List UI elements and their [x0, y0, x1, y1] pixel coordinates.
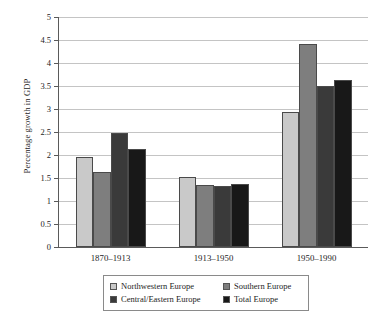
x-axis-line	[58, 247, 368, 248]
y-tick-mark	[54, 132, 58, 133]
y-tick-mark	[54, 17, 58, 18]
bar	[334, 80, 352, 247]
legend-label: Southern Europe	[234, 282, 291, 291]
y-tick-label: 3.5	[40, 82, 51, 91]
y-tick-label: 0.5	[40, 220, 51, 229]
y-tick-mark	[54, 155, 58, 156]
y-tick-mark	[54, 178, 58, 179]
bar	[93, 172, 111, 247]
bar	[128, 149, 146, 247]
bar	[179, 177, 197, 247]
y-tick-label: 1.5	[40, 174, 51, 183]
y-tick-label: 4	[47, 59, 51, 68]
y-tick-mark	[54, 201, 58, 202]
bar	[76, 157, 94, 247]
plot-area: 00.511.522.533.544.55	[58, 17, 368, 247]
bar	[214, 186, 232, 247]
bar-group	[282, 17, 352, 247]
y-tick-mark	[54, 247, 58, 248]
bars-layer	[59, 17, 368, 247]
x-axis-label: 1950–1990	[297, 253, 337, 263]
legend-item: Total Europe	[223, 295, 303, 304]
bar-group	[179, 17, 249, 247]
x-axis-label: 1913–1950	[194, 253, 234, 263]
bar	[111, 133, 129, 247]
legend-item: Northwestern Europe	[110, 282, 223, 291]
y-tick-mark	[54, 40, 58, 41]
legend-label: Northwestern Europe	[121, 282, 194, 291]
y-tick-mark	[54, 86, 58, 87]
y-tick-label: 4.5	[40, 36, 51, 45]
y-tick-label: 5	[47, 13, 51, 22]
bar-chart-figure: Percentage growth in GDP 00.511.522.533.…	[0, 0, 390, 325]
bar	[299, 44, 317, 247]
chart-legend: Northwestern EuropeSouthern EuropeCentra…	[103, 275, 309, 311]
legend-swatch	[223, 283, 230, 290]
y-tick-label: 2	[47, 151, 51, 160]
y-tick-mark	[54, 224, 58, 225]
bar	[196, 185, 214, 247]
y-tick-label: 3	[47, 105, 51, 114]
y-tick-mark	[54, 109, 58, 110]
legend-swatch	[110, 283, 117, 290]
legend-label: Central/Eastern Europe	[121, 295, 201, 304]
legend-item: Southern Europe	[223, 282, 303, 291]
x-axis-label: 1870–1913	[91, 253, 131, 263]
legend-label: Total Europe	[234, 295, 278, 304]
y-tick-label: 2.5	[40, 128, 51, 137]
y-axis-title: Percentage growth in GDP	[22, 36, 36, 216]
bar	[282, 112, 300, 247]
legend-swatch	[223, 296, 230, 303]
legend-item: Central/Eastern Europe	[110, 295, 223, 304]
bar	[317, 86, 335, 247]
y-tick-label: 0	[47, 243, 51, 252]
bar-group	[76, 17, 146, 247]
bar	[231, 184, 249, 247]
y-tick-label: 1	[47, 197, 51, 206]
y-tick-mark	[54, 63, 58, 64]
legend-swatch	[110, 296, 117, 303]
